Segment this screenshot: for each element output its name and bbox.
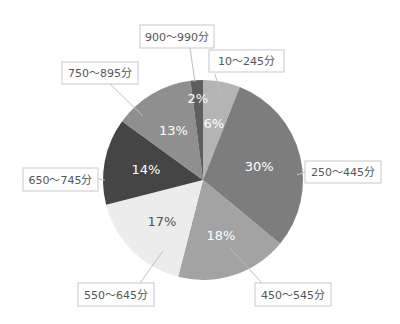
slice-category-label: 10～245分 [218, 55, 275, 68]
callout-leader-line [110, 84, 143, 116]
slice-category-label: 550～645分 [84, 289, 148, 302]
slice-percent-label: 13% [159, 123, 188, 138]
slice-category-label: 250～445分 [311, 166, 375, 179]
pie-chart: 6%30%18%17%14%13%2% 10～245分250～445分450～5… [0, 0, 400, 324]
slice-category-label: 650～745分 [29, 174, 93, 187]
slice-category-label: 900～990分 [145, 31, 209, 44]
slice-percent-label: 30% [245, 159, 274, 174]
slice-percent-label: 17% [148, 214, 177, 229]
slice-percent-label: 18% [206, 228, 235, 243]
callout-leader-line [190, 48, 195, 82]
slice-category-label: 450～545分 [261, 289, 325, 302]
slice-percent-label: 6% [204, 116, 225, 131]
slice-percent-label: 14% [132, 162, 161, 177]
slice-category-label: 750～895分 [68, 67, 132, 80]
slice-percent-label: 2% [188, 91, 209, 106]
